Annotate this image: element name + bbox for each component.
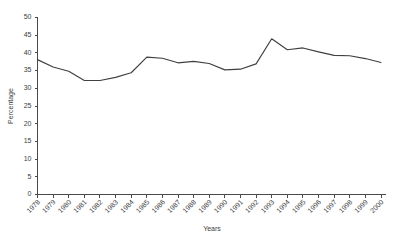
x-tick-label: 1991 xyxy=(228,198,244,214)
y-tick-label: 5 xyxy=(28,173,32,180)
y-tick-label: 40 xyxy=(24,49,32,56)
x-tick-label: 1996 xyxy=(306,198,322,214)
x-tick-label: 1998 xyxy=(338,198,354,214)
x-tick-label: 1999 xyxy=(353,198,369,214)
x-tick-label: 1982 xyxy=(88,198,104,214)
x-tick-label: 1987 xyxy=(166,198,182,214)
x-tick-label: 1994 xyxy=(275,198,291,214)
x-axis: 1978197919801981198219831984198519861987… xyxy=(25,195,386,233)
x-tick-label: 1981 xyxy=(72,198,88,214)
y-tick-label: 20 xyxy=(24,120,32,127)
y-axis-title: Percentage xyxy=(7,88,15,124)
x-tick-label: 1986 xyxy=(150,198,166,214)
data-series xyxy=(38,39,382,81)
x-tick-label: 1988 xyxy=(181,198,197,214)
x-tick-label: 1993 xyxy=(259,198,275,214)
y-tick-label: 10 xyxy=(24,155,32,162)
x-tick-label: 1995 xyxy=(291,198,307,214)
y-tick-label: 50 xyxy=(24,13,32,20)
y-tick-label: 15 xyxy=(24,137,32,144)
y-tick-label: 30 xyxy=(24,84,32,91)
y-tick-label: 25 xyxy=(24,102,32,109)
x-tick-label: 1979 xyxy=(41,198,57,214)
chart-canvas: 05101520253035404550 Percentage 19781979… xyxy=(0,0,412,243)
x-tick-label: 1984 xyxy=(119,198,135,214)
x-tick-label: 1983 xyxy=(103,198,119,214)
y-tick-label: 0 xyxy=(28,190,32,197)
x-tick-label: 1992 xyxy=(244,198,260,214)
x-axis-tick-labels: 1978197919801981198219831984198519861987… xyxy=(25,198,385,214)
x-tick-label: 1980 xyxy=(56,198,72,214)
line-chart: 05101520253035404550 Percentage 19781979… xyxy=(0,0,412,243)
x-tick-label: 1985 xyxy=(135,198,151,214)
x-tick-label: 1997 xyxy=(322,198,338,214)
percentage-line xyxy=(38,39,382,81)
y-axis-tick-labels: 05101520253035404550 xyxy=(24,13,32,197)
x-tick-label: 1990 xyxy=(213,198,229,214)
y-tick-label: 35 xyxy=(24,66,32,73)
y-axis: 05101520253035404550 Percentage xyxy=(7,13,38,197)
x-tick-label: 2000 xyxy=(369,198,385,214)
x-axis-title: Years xyxy=(203,225,221,232)
y-tick-label: 45 xyxy=(24,31,32,38)
x-tick-label: 1978 xyxy=(25,198,41,214)
x-tick-label: 1989 xyxy=(197,198,213,214)
